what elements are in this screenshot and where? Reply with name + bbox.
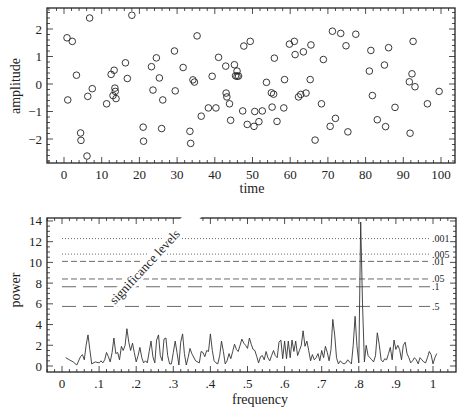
data-point — [241, 43, 248, 50]
data-point — [222, 63, 229, 70]
data-point — [86, 15, 93, 22]
data-point — [332, 115, 339, 122]
x-tick-label: .8 — [354, 376, 364, 391]
data-point — [159, 97, 166, 104]
data-point — [172, 88, 179, 95]
y-tick-label: 2 — [36, 22, 43, 37]
y-tick-label: 0 — [36, 359, 43, 374]
data-point — [64, 97, 71, 104]
data-point — [231, 61, 238, 68]
data-point — [150, 87, 157, 94]
data-point — [140, 138, 147, 145]
data-point — [280, 105, 287, 112]
y-tick-label: −2 — [28, 132, 42, 147]
amplitude-tick-labels: −2−1012 — [28, 22, 42, 147]
data-point — [226, 101, 233, 108]
x-tick-label: .7 — [317, 376, 327, 391]
data-point — [343, 42, 350, 49]
data-point — [190, 77, 197, 84]
data-point — [329, 28, 336, 35]
x-tick-label: .2 — [131, 376, 141, 391]
top-axis-ticks — [47, 8, 455, 163]
data-point — [337, 30, 344, 37]
data-point — [352, 31, 359, 38]
data-point — [320, 56, 327, 63]
data-point — [73, 72, 80, 79]
data-point — [153, 55, 160, 62]
x-tick-label: .5 — [243, 376, 253, 391]
x-tick-label: .3 — [168, 376, 178, 391]
scatter-points — [64, 12, 443, 159]
significance-level-label: .1 — [432, 281, 440, 292]
x-tick-label: 0 — [61, 167, 68, 182]
data-point — [84, 93, 91, 100]
top-plot-frame — [47, 8, 455, 163]
y-tick-label: 0 — [36, 77, 43, 92]
y-tick-label: 2 — [36, 338, 43, 353]
x-tick-label: .6 — [280, 376, 290, 391]
frequency-tick-labels: 0.1.2.3.4.5.6.7.8.91 — [59, 376, 437, 391]
data-point — [209, 73, 216, 80]
data-point — [259, 108, 266, 115]
figure: 0102030405060708090100 −2−1012 time ampl… — [0, 0, 465, 416]
data-point — [327, 123, 334, 130]
y-tick-label: 12 — [29, 234, 42, 249]
data-point — [224, 94, 231, 101]
x-tick-label: .9 — [391, 376, 401, 391]
data-point — [78, 137, 85, 144]
data-point — [312, 137, 319, 144]
data-point — [263, 79, 270, 86]
y-tick-label: 14 — [29, 213, 43, 228]
data-point — [122, 60, 129, 67]
data-point — [247, 38, 254, 45]
x-tick-label: 1 — [430, 376, 437, 391]
y-tick-label: 8 — [36, 276, 43, 291]
y-tick-label: 4 — [36, 317, 43, 332]
data-point — [129, 12, 136, 19]
x-tick-label: 0 — [59, 376, 66, 391]
time-series-scatter-chart: 0102030405060708090100 −2−1012 time ampl… — [8, 8, 455, 196]
data-point — [368, 47, 375, 54]
data-point — [205, 105, 212, 112]
data-point — [103, 101, 110, 108]
data-point — [213, 105, 220, 112]
x-tick-label: 60 — [284, 167, 297, 182]
periodogram-chart: .001.005.01.05.1.5 0.1.2.3.4.5.6.7.8.91 … — [8, 205, 456, 407]
x-axis-label-frequency: frequency — [232, 392, 288, 407]
data-point — [392, 104, 399, 111]
data-point — [148, 63, 155, 70]
data-point — [291, 38, 298, 45]
data-point — [409, 71, 416, 78]
data-point — [69, 38, 76, 45]
data-point — [77, 130, 84, 137]
data-point — [307, 76, 314, 83]
data-point — [274, 118, 281, 125]
data-point — [300, 49, 307, 56]
significance-level-label: .5 — [432, 301, 440, 312]
data-point — [424, 101, 431, 108]
data-point — [187, 140, 194, 147]
x-tick-label: 80 — [359, 167, 372, 182]
data-point — [244, 121, 251, 128]
significance-levels-annotation: significance levels — [106, 226, 183, 307]
y-tick-label: −1 — [28, 104, 42, 119]
x-tick-label: 50 — [246, 167, 259, 182]
x-tick-label: .1 — [94, 376, 104, 391]
data-point — [374, 116, 381, 123]
data-point — [369, 92, 376, 99]
y-axis-label-amplitude: amplitude — [8, 58, 23, 114]
x-axis-label-time: time — [240, 181, 265, 196]
data-point — [366, 68, 373, 75]
data-point — [256, 118, 263, 125]
data-point — [271, 55, 278, 62]
data-point — [407, 130, 414, 137]
time-tick-labels: 0102030405060708090100 — [61, 167, 451, 182]
data-point — [140, 124, 147, 131]
data-point — [292, 51, 299, 58]
data-point — [194, 33, 201, 40]
power-tick-labels: 02468101214 — [29, 213, 43, 373]
data-point — [158, 125, 165, 132]
data-point — [382, 123, 389, 130]
x-tick-label: 100 — [431, 167, 451, 182]
y-tick-label: 1 — [36, 49, 43, 64]
